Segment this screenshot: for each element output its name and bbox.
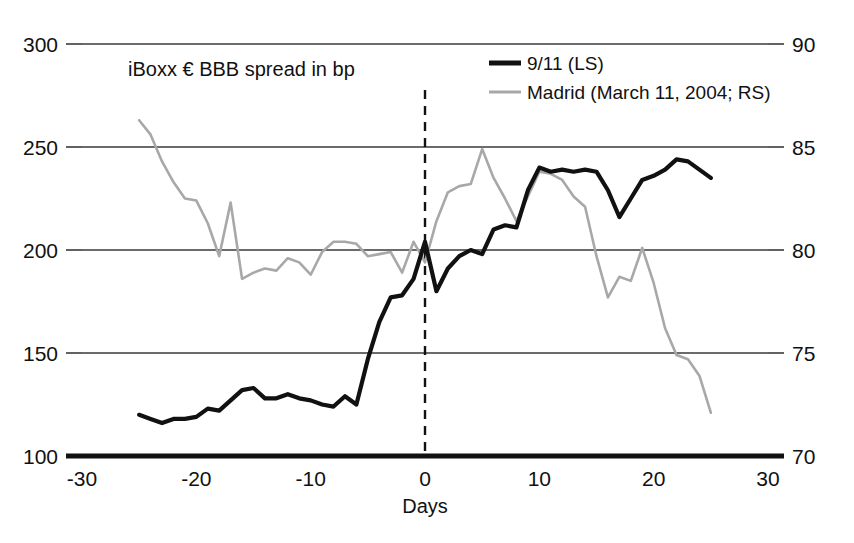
left-axis-tick-label-250: 250 [23,136,58,159]
chart-title: iBoxx € BBB spread in bp [128,58,355,80]
x-axis-tick-label-0: 0 [419,467,431,490]
legend-label-911: 9/11 (LS) [527,53,604,74]
chart-legend: 9/11 (LS) Madrid (March 11, 2004; RS) [489,53,771,103]
right-axis-tick-label-90: 90 [792,33,815,56]
x-axis-tick-label-30: 30 [756,467,779,490]
chart-container: 100150200250300 7075808590 -30-20-100102… [0,0,854,543]
x-axis-tick-label-neg30: -30 [67,467,97,490]
left-axis-tick-label-100: 100 [23,445,58,468]
right-axis-tick-label-85: 85 [792,136,815,159]
left-axis-tick-label-150: 150 [23,342,58,365]
right-axis-tick-label-80: 80 [792,239,815,262]
right-axis-tick-label-75: 75 [792,342,815,365]
left-axis-tick-label-200: 200 [23,239,58,262]
left-axis-tickmarks [66,44,82,456]
legend-label-madrid: Madrid (March 11, 2004; RS) [527,82,771,103]
right-axis-tick-labels: 7075808590 [792,33,815,468]
line-chart-figure: 100150200250300 7075808590 -30-20-100102… [0,0,854,543]
x-axis-tick-labels: -30-20-100102030 [67,467,780,490]
x-axis-tick-label-neg10: -10 [295,467,325,490]
x-axis-title: Days [402,495,448,517]
x-axis-tick-label-20: 20 [642,467,665,490]
left-axis-tick-labels: 100150200250300 [23,33,58,468]
x-axis-tick-label-neg20: -20 [181,467,211,490]
x-axis-tick-label-10: 10 [528,467,551,490]
right-axis-tick-label-70: 70 [792,445,815,468]
left-axis-tick-label-300: 300 [23,33,58,56]
right-axis-tickmarks [768,44,784,456]
